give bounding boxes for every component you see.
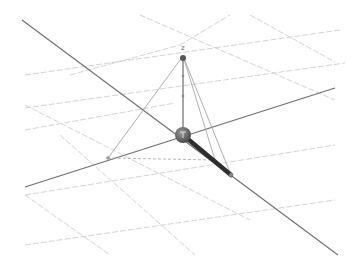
rod-end-marker (229, 173, 233, 177)
x-axis-marker (106, 156, 110, 160)
z-tick (182, 75, 185, 78)
z-axis-label: z (181, 44, 185, 52)
z-endpoint[interactable] (180, 55, 186, 61)
z-tick (182, 95, 185, 98)
origin-sphere[interactable] (175, 127, 191, 143)
z-axis-marker[interactable] (180, 55, 186, 61)
3d-viewport[interactable]: z (0, 0, 361, 271)
